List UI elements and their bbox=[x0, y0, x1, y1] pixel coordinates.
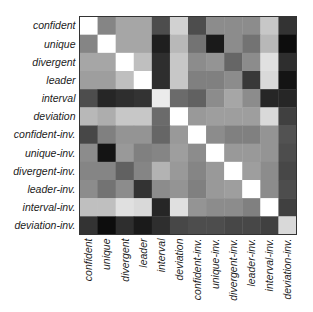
heatmap-cell bbox=[260, 71, 278, 90]
heatmap-cell bbox=[152, 89, 170, 108]
row-label: interval bbox=[42, 92, 77, 104]
column-labels: confidentuniquedivergentleaderintervalde… bbox=[82, 237, 293, 300]
heatmap-cell bbox=[170, 89, 188, 108]
heatmap-cell bbox=[170, 126, 188, 145]
heatmap-cell bbox=[98, 144, 116, 163]
heatmap-cell bbox=[242, 144, 260, 163]
heatmap-cell bbox=[98, 162, 116, 181]
heatmap-cell bbox=[242, 89, 260, 108]
heatmap-cell bbox=[242, 126, 260, 145]
heatmap-cell bbox=[188, 107, 206, 126]
column-label: divergent bbox=[119, 237, 131, 281]
heatmap-cell bbox=[188, 162, 206, 181]
row-labels: confidentuniquedivergentleaderintervalde… bbox=[13, 19, 76, 231]
heatmap-cell bbox=[278, 53, 296, 72]
heatmap-cell bbox=[170, 180, 188, 199]
column-label: confident bbox=[82, 237, 94, 281]
heatmap-cell bbox=[260, 107, 278, 126]
heatmap-cell bbox=[242, 216, 260, 235]
heatmap-cell bbox=[188, 180, 206, 199]
heatmap-cell bbox=[278, 198, 296, 217]
heatmap-cell bbox=[170, 53, 188, 72]
heatmap-cell bbox=[188, 53, 206, 72]
heatmap-cell bbox=[152, 126, 170, 145]
heatmap-cell bbox=[278, 17, 296, 36]
row-label: divergent-inv. bbox=[13, 165, 75, 177]
heatmap-cell bbox=[116, 162, 134, 181]
heatmap-cell bbox=[116, 89, 134, 108]
row-label: divergent bbox=[32, 56, 76, 68]
heatmap-cell bbox=[134, 162, 152, 181]
heatmap-cell bbox=[188, 89, 206, 108]
heatmap-cell bbox=[170, 144, 188, 163]
row-label: deviation-inv. bbox=[14, 219, 75, 231]
heatmap-cell bbox=[152, 53, 170, 72]
heatmap-cell bbox=[134, 53, 152, 72]
heatmap-cell bbox=[80, 180, 98, 199]
heatmap-cell bbox=[242, 35, 260, 54]
column-label: deviation-inv. bbox=[281, 239, 293, 300]
heatmap-cell bbox=[260, 89, 278, 108]
heatmap-cell bbox=[206, 17, 224, 36]
heatmap-cell bbox=[80, 144, 98, 163]
heatmap-cell bbox=[116, 198, 134, 217]
heatmap-cell bbox=[242, 162, 260, 181]
heatmap-cell bbox=[116, 126, 134, 145]
column-label: interval bbox=[155, 238, 167, 273]
heatmap-cell bbox=[80, 107, 98, 126]
heatmap-cell bbox=[134, 17, 152, 36]
row-label: unique-inv. bbox=[25, 147, 76, 159]
heatmap-cell bbox=[116, 180, 134, 199]
heatmap-cell bbox=[98, 53, 116, 72]
heatmap-cell bbox=[242, 107, 260, 126]
heatmap-cell bbox=[242, 198, 260, 217]
heatmap-cell bbox=[170, 71, 188, 90]
heatmap-cell bbox=[134, 198, 152, 217]
heatmap-cell bbox=[98, 17, 116, 36]
row-label: leader bbox=[46, 74, 76, 86]
heatmap-cell bbox=[224, 216, 242, 235]
heatmap-cell bbox=[224, 162, 242, 181]
heatmap-cell bbox=[80, 89, 98, 108]
heatmap-cell bbox=[80, 35, 98, 54]
heatmap-cell bbox=[260, 17, 278, 36]
heatmap-cell bbox=[134, 126, 152, 145]
heatmap-cell bbox=[80, 162, 98, 181]
heatmap-cell bbox=[98, 89, 116, 108]
heatmap-cell bbox=[116, 216, 134, 235]
heatmap-cell bbox=[224, 71, 242, 90]
heatmap-cell bbox=[80, 53, 98, 72]
heatmap-cell bbox=[206, 107, 224, 126]
heatmap-cell bbox=[224, 180, 242, 199]
heatmap-cell bbox=[224, 107, 242, 126]
heatmap-cell bbox=[134, 35, 152, 54]
column-label: unique-inv. bbox=[209, 239, 221, 290]
heatmap-cell bbox=[134, 71, 152, 90]
heatmap-cell bbox=[206, 162, 224, 181]
heatmap-cell bbox=[224, 198, 242, 217]
column-label: leader-inv. bbox=[245, 239, 257, 287]
heatmap-cell bbox=[80, 216, 98, 235]
heatmap-cell bbox=[80, 71, 98, 90]
heatmap-cell bbox=[260, 162, 278, 181]
heatmap-cell bbox=[170, 198, 188, 217]
heatmap-cell bbox=[224, 17, 242, 36]
heatmap-cell bbox=[116, 53, 134, 72]
heatmap-cell bbox=[224, 89, 242, 108]
heatmap-cell bbox=[188, 17, 206, 36]
column-label: leader bbox=[137, 238, 149, 268]
heatmap-cell bbox=[98, 107, 116, 126]
heatmap-cell bbox=[206, 126, 224, 145]
heatmap-cell bbox=[152, 180, 170, 199]
heatmap-cell bbox=[116, 17, 134, 36]
heatmap-cell bbox=[206, 216, 224, 235]
heatmap-cell bbox=[170, 17, 188, 36]
heatmap-cell bbox=[242, 180, 260, 199]
heatmap-cell bbox=[206, 144, 224, 163]
heatmap-cell bbox=[278, 89, 296, 108]
heatmap-cell bbox=[188, 71, 206, 90]
heatmap-cell bbox=[260, 216, 278, 235]
heatmap-cell bbox=[188, 198, 206, 217]
heatmap-cell bbox=[152, 162, 170, 181]
heatmap-cell bbox=[278, 216, 296, 235]
